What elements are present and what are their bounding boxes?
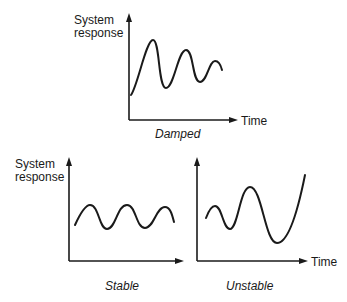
system-response-diagram: System response Time Damped System respo… [0,0,347,302]
stable-y-label-line2: response [15,170,65,184]
unstable-x-label: Time [311,255,338,269]
unstable-caption: Unstable [226,279,274,293]
unstable-curve [206,175,305,243]
damped-panel: System response Time Damped [74,13,268,141]
stable-y-label-line1: System [15,157,55,171]
stable-x-axis-arrow-icon [175,258,184,264]
damped-x-label: Time [241,114,268,128]
unstable-x-axis-arrow-icon [299,258,308,264]
unstable-y-axis-arrow-icon [194,157,200,166]
damped-y-axis-arrow-icon [126,13,132,22]
stable-caption: Stable [105,279,139,293]
damped-y-label-line2: response [74,26,124,40]
damped-caption: Damped [155,127,201,141]
damped-x-axis-arrow-icon [229,117,238,123]
stable-y-axis-arrow-icon [66,157,72,166]
unstable-panel: Time Unstable [194,157,338,293]
damped-y-label-line1: System [74,13,114,27]
stable-curve [75,205,174,229]
damped-curve [131,40,222,95]
stable-panel: System response Stable [15,157,184,293]
